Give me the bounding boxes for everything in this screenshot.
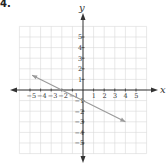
y-tick-label: −5 [75, 139, 85, 147]
x-tick-label: 4 [124, 92, 128, 100]
y-tick-label: −4 [75, 129, 85, 137]
x-tick-label: −4 [37, 92, 47, 100]
x-tick-label: −2 [58, 92, 68, 100]
x-tick-label: −5 [27, 92, 37, 100]
x-tick-label: 1 [92, 92, 96, 100]
y-tick-label: 1 [78, 76, 82, 84]
y-axis-up-arrow-icon [81, 13, 86, 20]
y-tick-label: −2 [75, 108, 85, 116]
x-tick-label: 2 [102, 92, 106, 100]
x-axis-right-arrow-icon [151, 88, 158, 93]
x-tick-label: 5 [134, 92, 138, 100]
y-tick-label: −3 [75, 118, 85, 126]
y-axis-down-arrow-icon [81, 156, 86, 163]
x-axis-label: x [160, 84, 166, 95]
y-tick-label: 4 [78, 44, 82, 52]
coordinate-plane: xy −5−4−3−2−11234554321−1−2−3−4−5 [0, 0, 167, 165]
y-tick-label: 5 [78, 33, 82, 41]
y-tick-label: 2 [78, 65, 82, 73]
y-axis-label: y [78, 2, 85, 13]
x-tick-label: −3 [48, 92, 58, 100]
x-tick-label: 3 [113, 92, 117, 100]
x-axis-left-arrow-icon [10, 88, 17, 93]
y-tick-label: 3 [78, 55, 82, 63]
